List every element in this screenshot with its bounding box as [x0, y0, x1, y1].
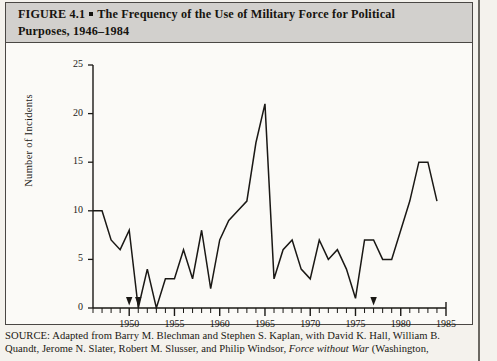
x-tick-label: 1965 [248, 318, 282, 329]
bullet-square-icon [89, 12, 93, 16]
x-tick-label: 1985 [429, 318, 463, 329]
page-background: FIGURE 4.1The Frequency of the Use of Mi… [0, 0, 497, 361]
figure-title-line1: The Frequency of the Use of Military For… [97, 7, 395, 21]
x-tick-label: 1955 [157, 318, 191, 329]
source-line-2-post: (Washington, [369, 343, 429, 354]
data-series-line [93, 104, 437, 308]
y-tick-label: 5 [61, 252, 83, 263]
x-tick-label: 1960 [203, 318, 237, 329]
source-line-1: SOURCE: Adapted from Barry M. Blechman a… [5, 330, 440, 341]
figure-title-line2: Purposes, 1946–1984 [18, 24, 129, 38]
x-tick-label: 1950 [112, 318, 146, 329]
y-tick-label: 10 [61, 204, 83, 215]
x-tick-label: 1970 [293, 318, 327, 329]
chart-ticks [88, 65, 446, 316]
source-line-2-pre: Quandt, Jerome N. Slater, Robert M. Slus… [5, 343, 289, 354]
chart-plot-area: Number of Incidents 0510152025 195019551… [6, 43, 472, 324]
y-tick-label: 25 [61, 58, 83, 69]
figure-caption: FIGURE 4.1The Frequency of the Use of Mi… [18, 6, 464, 40]
y-tick-label: 15 [61, 155, 83, 166]
source-book-title: Force without War [289, 343, 369, 354]
y-tick-label: 20 [61, 107, 83, 118]
page-right-rule [478, 0, 480, 361]
source-note: SOURCE: Adapted from Barry M. Blechman a… [5, 330, 475, 355]
axis-arrow-markers [126, 297, 377, 306]
figure-box: FIGURE 4.1The Frequency of the Use of Mi… [5, 2, 473, 325]
x-tick-label: 1980 [384, 318, 418, 329]
figure-number: FIGURE 4.1 [18, 7, 85, 21]
x-tick-label: 1975 [338, 318, 372, 329]
figure-caption-band: FIGURE 4.1The Frequency of the Use of Mi… [6, 3, 472, 43]
y-tick-label: 0 [61, 301, 83, 312]
line-chart [6, 43, 474, 324]
